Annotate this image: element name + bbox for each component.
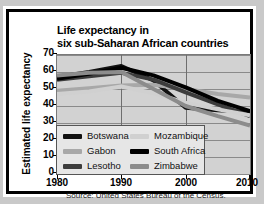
chart-title: Life expectancy in six sub-Saharan Afric… [57, 24, 247, 50]
legend-label-mozambique: Mozambique [154, 129, 208, 143]
y-axis-ticks: 70 60 50 40 30 20 10 0 [29, 12, 54, 204]
y-tick-label: 50 [32, 81, 54, 92]
y-tick-label: 0 [32, 166, 54, 177]
y-tick-label: 70 [32, 47, 54, 58]
figure-root: Life expectancy in six sub-Saharan Afric… [0, 0, 264, 204]
y-tick-label: 60 [32, 64, 54, 75]
x-tick-label: 1980 [40, 177, 74, 188]
legend-swatch-south-africa [130, 149, 149, 154]
legend-label-zimbabwe: Zimbabwe [154, 159, 198, 173]
chart-title-line-2: six sub-Saharan African countries [57, 37, 247, 50]
legend-label-botswana: Botswana [87, 129, 129, 143]
legend-label-lesotho: Lesotho [87, 159, 121, 173]
legend-swatch-mozambique [130, 134, 149, 139]
chart-legend: Botswana Gabon Lesotho Mozambique South … [56, 125, 205, 175]
legend-swatch-gabon [63, 149, 82, 154]
legend-swatch-lesotho [63, 164, 82, 169]
y-tick-label: 20 [32, 132, 54, 143]
y-tick-label: 10 [32, 149, 54, 160]
legend-label-gabon: Gabon [87, 144, 116, 158]
legend-swatch-zimbabwe [130, 164, 149, 169]
y-tick-label: 30 [32, 115, 54, 126]
x-tick-label: 1990 [104, 177, 138, 188]
source-note: Source: United States Bureau of the Cens… [66, 191, 226, 200]
x-tick-label: 2000 [169, 177, 203, 188]
x-tick-label: 2010 [230, 177, 264, 188]
chart-title-line-1: Life expectancy in [57, 24, 247, 37]
y-tick-label: 40 [32, 98, 54, 109]
chart-frame: Life expectancy in six sub-Saharan Afric… [6, 9, 253, 194]
legend-label-south-africa: South Africa [154, 144, 205, 158]
legend-swatch-botswana [63, 134, 82, 139]
